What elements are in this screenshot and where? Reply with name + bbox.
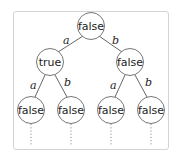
node-bb-label: false — [138, 104, 164, 117]
node-ab: false — [58, 97, 85, 124]
node-b-label: false — [117, 56, 143, 69]
node-ba-label: false — [98, 104, 124, 117]
tree-diagram: a b a b a b false true false false false… — [0, 0, 181, 160]
node-root: false — [78, 13, 105, 40]
node-a: true — [37, 49, 64, 76]
node-ab-label: false — [58, 104, 84, 117]
edge-label-b-bb: b — [145, 76, 152, 89]
edge-label-root-b: b — [112, 34, 119, 47]
edge-label-b-ba: a — [110, 79, 117, 92]
node-aa-label: false — [18, 104, 44, 117]
edge-label-a-aa: a — [30, 79, 37, 92]
node-a-label: true — [39, 56, 62, 69]
edge-label-a-ab: b — [64, 76, 71, 89]
node-b: false — [117, 49, 144, 76]
edge-root-a — [58, 36, 83, 52]
edge-label-root-a: a — [63, 34, 70, 47]
node-root-label: false — [78, 20, 104, 33]
node-bb: false — [138, 97, 165, 124]
node-ba: false — [98, 97, 125, 124]
node-aa: false — [18, 97, 45, 124]
